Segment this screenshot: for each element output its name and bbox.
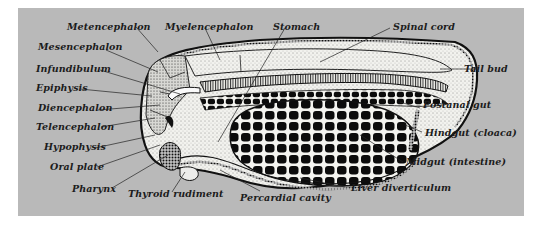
label-midgut: Midgut (intestine) bbox=[406, 157, 506, 167]
label-tail-bud: Tail bud bbox=[464, 64, 508, 74]
label-mesencephalon: Mesencephalon bbox=[38, 42, 123, 52]
label-oral-plate: Oral plate bbox=[50, 162, 104, 172]
label-epiphysis: Epiphysis bbox=[36, 83, 88, 93]
label-hindgut: Hindgut (cloaca) bbox=[425, 128, 517, 138]
label-myelencephalon: Myelencephalon bbox=[165, 22, 253, 32]
label-liver-diverticulum: Liver diverticulum bbox=[351, 183, 451, 193]
label-spinal-cord: Spinal cord bbox=[393, 22, 455, 32]
label-postanal-gut: Postanal gut bbox=[423, 100, 491, 110]
label-telencephalon: Telencephalon bbox=[36, 122, 114, 132]
label-thyroid-rudiment: Thyroid rudiment bbox=[128, 189, 224, 199]
label-pharynx: Pharynx bbox=[72, 184, 116, 194]
label-stomach: Stomach bbox=[273, 22, 320, 32]
label-diencephalon: Diencephalon bbox=[38, 103, 112, 113]
label-percardial-cavity: Percardial cavity bbox=[240, 193, 331, 203]
label-infundibulum: Infundibulum bbox=[36, 64, 111, 74]
label-metencephalon: Metencephalon bbox=[67, 22, 151, 32]
label-hypophysis: Hypophysis bbox=[44, 142, 106, 152]
